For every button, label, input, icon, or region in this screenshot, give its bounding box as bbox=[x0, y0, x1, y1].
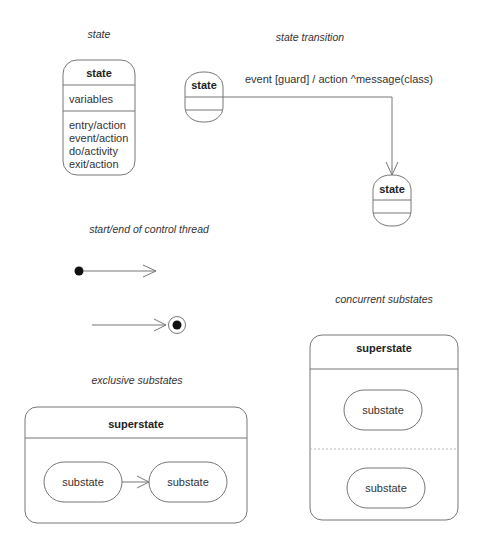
transition-arrow bbox=[223, 97, 398, 175]
transition-line bbox=[223, 97, 392, 175]
exclusive-substate[interactable]: substate bbox=[149, 462, 227, 502]
action-exit: exit/action bbox=[69, 158, 119, 170]
transition-target-state[interactable]: state bbox=[373, 175, 411, 226]
final-state-dot-icon bbox=[173, 321, 182, 330]
exclusive-superstate[interactable]: superstate substate substate bbox=[25, 407, 247, 523]
caption-state: state bbox=[88, 28, 111, 40]
concurrent-superstate[interactable]: superstate substate substate bbox=[310, 335, 458, 520]
start-node bbox=[75, 265, 157, 277]
caption-state-transition: state transition bbox=[276, 31, 344, 43]
state-name: state bbox=[86, 67, 112, 79]
substate-label: substate bbox=[62, 476, 104, 488]
action-entry: entry/action bbox=[69, 119, 126, 131]
transition-label: event [guard] / action ^message(class) bbox=[245, 73, 433, 85]
caption-exclusive: exclusive substates bbox=[91, 374, 183, 386]
concurrent-substate[interactable]: substate bbox=[347, 468, 425, 508]
end-node bbox=[92, 317, 186, 334]
concurrent-substate[interactable]: substate bbox=[344, 390, 422, 430]
concurrent-superstate-name: superstate bbox=[356, 342, 412, 354]
initial-state-dot-icon bbox=[75, 267, 84, 276]
caption-control-thread: start/end of control thread bbox=[89, 223, 210, 235]
exclusive-superstate-name: superstate bbox=[108, 418, 164, 430]
exclusive-substate[interactable]: substate bbox=[44, 462, 122, 502]
uml-state-diagram: state state variables entry/action event… bbox=[0, 0, 484, 559]
target-state-name: state bbox=[379, 183, 405, 195]
substate-label: substate bbox=[365, 482, 407, 494]
transition-source-state[interactable]: state bbox=[185, 72, 223, 122]
state-variables: variables bbox=[69, 93, 114, 105]
substate-label: substate bbox=[167, 476, 209, 488]
action-event: event/action bbox=[69, 132, 128, 144]
caption-concurrent: concurrent substates bbox=[335, 293, 433, 305]
state-box[interactable]: state variables entry/action event/actio… bbox=[63, 60, 135, 175]
substate-label: substate bbox=[362, 404, 404, 416]
source-state-name: state bbox=[191, 79, 217, 91]
action-do: do/activity bbox=[69, 145, 118, 157]
